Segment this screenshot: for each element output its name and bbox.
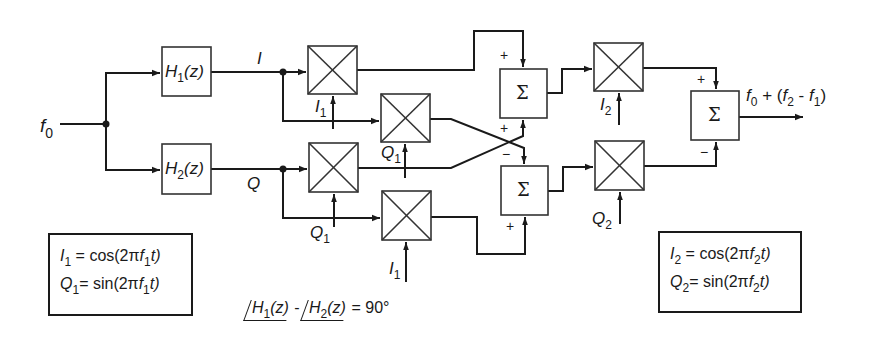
lo-label-m1: I1 (315, 98, 326, 115)
output-label: f0 + (f2 - f1) (746, 87, 826, 104)
lo-label-m5: I2 (600, 96, 611, 113)
filter-h2-label: H2(z) (165, 160, 204, 177)
sum-upper-sign-top: + (500, 48, 508, 62)
sum-upper-symbol: Σ (516, 84, 529, 102)
legend-lo2-i: I2 = cos(2πf2t) (670, 245, 770, 263)
mixer-m5 (594, 43, 643, 91)
sum-lower-sign-top: − (502, 147, 510, 161)
mixer-m1 (308, 46, 357, 94)
filter-h1-label: H1(z) (165, 63, 204, 80)
wire-m1-to-sum-upper (357, 31, 523, 70)
wire-to-h1 (106, 73, 160, 124)
wire-to-h2 (106, 124, 160, 170)
legend-lo1-q: Q1= sin(2πf1t) (60, 275, 160, 293)
wire-sum-upper-to-m5 (547, 69, 592, 93)
signal-q-label: Q (247, 175, 260, 192)
sum-lower-symbol: Σ (517, 181, 530, 199)
legend-lo1: I1 = cos(2πf1t) Q1= sin(2πf1t) (48, 233, 193, 316)
mixer-m3 (309, 143, 358, 192)
sum-lower-sign-bottom: + (506, 219, 514, 233)
junction-q (280, 166, 287, 173)
junction-input (103, 121, 110, 128)
wire-sum-lower-to-m6 (548, 167, 593, 191)
sum-upper-sign-bottom: + (500, 121, 508, 135)
legend-lo2: I2 = cos(2πf2t) Q2= sin(2πf2t) (658, 231, 802, 313)
lo-label-m4: I1 (389, 260, 400, 277)
lo-label-m3: Q1 (310, 224, 330, 241)
lo-label-m2: Q1 (381, 144, 401, 161)
legend-lo2-q: Q2= sin(2πf2t) (670, 273, 770, 291)
sum-final-sign-top: + (697, 72, 705, 86)
legend-lo1-i: I1 = cos(2πf1t) (60, 247, 160, 265)
sum-final-sign-bottom: − (700, 145, 708, 159)
angle-h2: H2(z) (300, 300, 351, 321)
input-label: f0 (40, 116, 53, 135)
junction-i (280, 69, 287, 76)
signal-i-label: I (257, 50, 262, 67)
mixer-m2 (381, 94, 430, 142)
mixer-m6 (595, 141, 644, 190)
lo-label-m6: Q2 (592, 210, 612, 227)
angle-h1: H1(z) (243, 300, 294, 321)
phase-condition: H1(z) - H2(z) = 90° (247, 300, 389, 321)
mixer-m4 (382, 191, 431, 240)
sum-final-symbol: Σ (708, 106, 721, 124)
